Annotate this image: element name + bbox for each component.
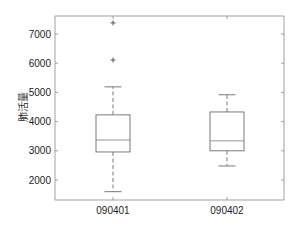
x-tick-label: 090402 bbox=[210, 205, 244, 216]
y-axis-ticks: 200030004000500060007000 bbox=[29, 29, 284, 186]
y-tick-label: 5000 bbox=[29, 87, 52, 98]
box-plot: 200030004000500060007000 090401090402 肺活… bbox=[0, 0, 298, 228]
y-tick-label: 7000 bbox=[29, 29, 52, 40]
plot-frame bbox=[55, 16, 284, 200]
box-090401 bbox=[96, 20, 130, 191]
outlier-marker bbox=[111, 57, 116, 62]
y-tick-label: 2000 bbox=[29, 175, 52, 186]
y-tick-label: 3000 bbox=[29, 145, 52, 156]
iqr-box bbox=[96, 115, 130, 152]
iqr-box bbox=[210, 112, 244, 151]
y-axis-label: 肺活量 bbox=[18, 92, 29, 122]
outlier-marker bbox=[111, 20, 116, 25]
axes-box bbox=[55, 16, 284, 200]
box-090402 bbox=[210, 95, 244, 166]
y-tick-label: 4000 bbox=[29, 116, 52, 127]
box-series bbox=[96, 20, 244, 191]
y-tick-label: 6000 bbox=[29, 58, 52, 69]
x-tick-label: 090401 bbox=[96, 205, 130, 216]
